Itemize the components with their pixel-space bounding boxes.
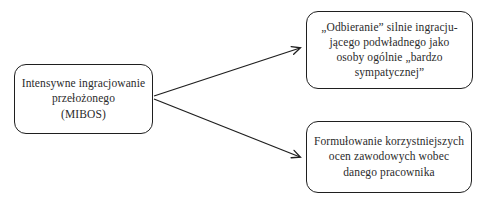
node-evaluations: Formułowanie korzystniejszych ocen zawod… bbox=[306, 121, 472, 193]
node-mibos-label: Intensywne ingracjowanie przełożonego (M… bbox=[22, 76, 145, 122]
arrow-mibos-to-evaluations bbox=[154, 99, 300, 157]
node-perception: „Odbieranie” silnie ingracju- jącego pod… bbox=[306, 11, 473, 89]
node-mibos: Intensywne ingracjowanie przełożonego (M… bbox=[14, 64, 153, 134]
node-evaluations-label: Formułowanie korzystniejszych ocen zawod… bbox=[314, 134, 464, 180]
node-perception-label: „Odbieranie” silnie ingracju- jącego pod… bbox=[321, 20, 457, 81]
diagram-canvas: Intensywne ingracjowanie przełożonego (M… bbox=[0, 0, 487, 205]
arrow-mibos-to-perception bbox=[154, 48, 300, 96]
